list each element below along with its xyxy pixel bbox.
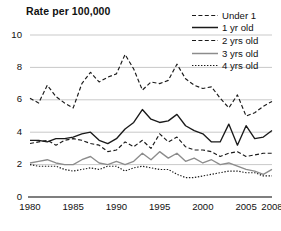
x-axis-tick-label: 1985: [58, 201, 88, 212]
series-lines: [30, 54, 272, 177]
y-axis-tick-label: 4: [6, 126, 22, 137]
legend-label: 1 yr old: [222, 22, 253, 33]
legend-key-icon: [192, 35, 218, 46]
legend-item-0[interactable]: Under 1: [192, 9, 258, 22]
legend-label: Under 1: [222, 10, 256, 21]
legend-key-icon: [192, 48, 218, 59]
x-axis-tick-label: 2008: [257, 201, 281, 212]
legend-label: 2 yrs old: [222, 35, 258, 46]
legend-label: 3 yrs old: [222, 48, 258, 59]
x-axis-tick-label: 1980: [15, 201, 45, 212]
chart-container: Rate per 100,000 0246810 198019851990199…: [0, 0, 281, 231]
legend-item-2[interactable]: 2 yrs old: [192, 34, 258, 47]
y-axis-tick-label: 2: [6, 158, 22, 169]
y-axis-tick-label: 0: [6, 191, 22, 202]
series-line-4: [30, 165, 272, 178]
series-line-3: [30, 152, 272, 175]
series-line-2: [30, 134, 272, 157]
legend-key-icon: [192, 22, 218, 33]
y-axis-tick-label: 6: [6, 93, 22, 104]
x-axis-tick-label: 1995: [145, 201, 175, 212]
legend-item-1[interactable]: 1 yr old: [192, 22, 258, 35]
legend-key-icon: [192, 10, 218, 21]
legend-label: 4 yrs old: [222, 60, 258, 71]
x-axis-tick-label: 1990: [101, 201, 131, 212]
legend-key-icon: [192, 60, 218, 71]
y-axis-tick-label: 10: [6, 29, 22, 40]
x-axis-tick-label: 2000: [188, 201, 218, 212]
y-axis-tick-label: 8: [6, 61, 22, 72]
legend-item-4[interactable]: 4 yrs old: [192, 59, 258, 72]
chart-legend: Under 11 yr old2 yrs old3 yrs old4 yrs o…: [192, 9, 258, 72]
legend-item-3[interactable]: 3 yrs old: [192, 47, 258, 60]
